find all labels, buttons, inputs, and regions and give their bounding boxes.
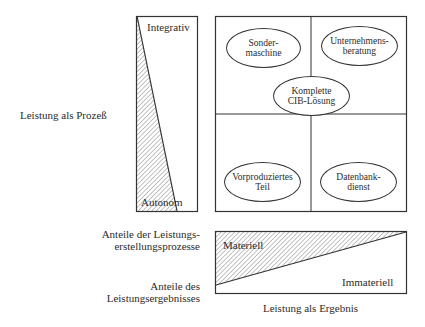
ellipse-line: Sonder-	[246, 38, 282, 48]
process-axis-label: Leistung als Prozeß	[20, 109, 107, 121]
ellipse-line: Komplette	[288, 86, 336, 96]
immaterial-label: Immateriell	[342, 276, 393, 288]
result-shares-label: Anteile des Leistungsergebnisses	[60, 280, 200, 304]
label-line: erstellungsprozesse	[60, 240, 200, 252]
ellipse-vorproduziertes-teil: VorproduziertesTeil	[224, 162, 301, 202]
ellipse-cib-loesung: KompletteCIB-Lösung	[273, 76, 350, 116]
ellipse-line: Vorproduziertes	[232, 172, 293, 182]
ellipse-line: Teil	[232, 182, 293, 192]
ellipse-sondermaschine: Sonder-maschine	[226, 28, 301, 68]
result-axis-label: Leistung als Ergebnis	[215, 302, 406, 314]
ellipse-line: dienst	[336, 182, 380, 192]
ellipse-line: beratung	[330, 46, 389, 56]
ellipse-line: Unternehmens-	[330, 36, 389, 46]
material-label: Materiell	[223, 239, 263, 251]
process-bar	[137, 16, 198, 212]
ellipse-datenbankdienst: Datenbank-dienst	[320, 162, 397, 202]
integrative-label: Integrativ	[147, 21, 190, 33]
label-line: Leistungsergebnisses	[60, 292, 200, 304]
ellipse-unternehmensberatung: Unternehmens-beratung	[321, 26, 398, 66]
ellipse-line: Datenbank-	[336, 172, 380, 182]
label-line: Anteile des	[60, 280, 200, 292]
autonomous-label: Autonom	[141, 196, 183, 208]
ellipse-line: maschine	[246, 48, 282, 58]
ellipse-line: CIB-Lösung	[288, 96, 336, 106]
label-line: Anteile der Leistungs-	[60, 228, 200, 240]
process-shares-label: Anteile der Leistungs- erstellungsprozes…	[60, 228, 200, 252]
